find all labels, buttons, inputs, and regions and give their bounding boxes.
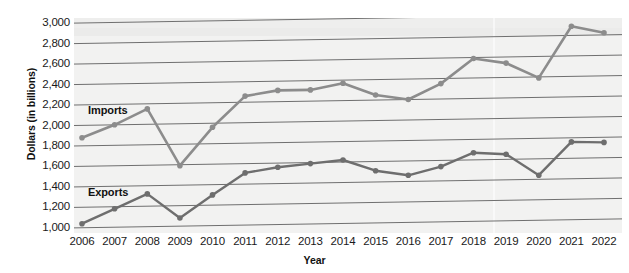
gridline bbox=[74, 18, 622, 23]
data-point[interactable] bbox=[242, 170, 248, 176]
data-point[interactable] bbox=[177, 163, 183, 169]
data-point[interactable] bbox=[406, 173, 412, 179]
x-tick-label: 2016 bbox=[396, 236, 421, 248]
data-point[interactable] bbox=[112, 206, 118, 212]
data-point[interactable] bbox=[275, 88, 281, 94]
data-point[interactable] bbox=[79, 135, 85, 141]
data-point[interactable] bbox=[308, 161, 314, 167]
x-tick-label: 2022 bbox=[592, 236, 617, 248]
y-tick-label: 2,200 bbox=[26, 99, 70, 111]
data-point[interactable] bbox=[177, 215, 183, 221]
y-tick-label: 2,400 bbox=[26, 79, 70, 91]
x-axis-tick-labels: 2006200720082009201020112012201320142015… bbox=[74, 236, 622, 254]
data-point[interactable] bbox=[536, 172, 542, 178]
x-tick-label: 2011 bbox=[233, 236, 257, 248]
data-point[interactable] bbox=[503, 151, 509, 157]
y-tick-label: 1,000 bbox=[26, 222, 70, 234]
line-chart: Dollars (in billions) 3,0002,8002,6002,4… bbox=[0, 0, 629, 273]
data-point[interactable] bbox=[438, 81, 444, 87]
gridline bbox=[74, 96, 622, 105]
data-point[interactable] bbox=[210, 125, 216, 131]
data-point[interactable] bbox=[438, 164, 444, 170]
data-point[interactable] bbox=[471, 56, 477, 62]
data-point[interactable] bbox=[503, 60, 509, 66]
plot-area: Imports Exports bbox=[74, 18, 622, 233]
series-label-imports: Imports bbox=[88, 104, 128, 116]
gridline bbox=[74, 35, 622, 44]
data-point[interactable] bbox=[210, 192, 216, 198]
y-tick-label: 1,200 bbox=[26, 202, 70, 214]
x-tick-label: 2019 bbox=[494, 236, 519, 248]
x-tick-label: 2010 bbox=[200, 236, 225, 248]
x-tick-label: 2020 bbox=[526, 236, 551, 248]
series-label-exports: Exports bbox=[88, 186, 128, 198]
data-point[interactable] bbox=[406, 97, 412, 103]
y-tick-label: 1,600 bbox=[26, 161, 70, 173]
data-point[interactable] bbox=[373, 92, 379, 98]
data-point[interactable] bbox=[340, 80, 346, 86]
data-point[interactable] bbox=[536, 75, 542, 81]
data-point[interactable] bbox=[308, 87, 314, 93]
y-tick-label: 2,000 bbox=[26, 120, 70, 132]
y-tick-label: 2,600 bbox=[26, 58, 70, 70]
plot-svg bbox=[74, 18, 622, 233]
x-tick-label: 2013 bbox=[298, 236, 323, 248]
data-point[interactable] bbox=[112, 122, 118, 128]
x-tick-label: 2006 bbox=[70, 236, 95, 248]
gridline bbox=[74, 219, 622, 228]
x-tick-label: 2015 bbox=[363, 236, 388, 248]
y-tick-label: 1,400 bbox=[26, 181, 70, 193]
data-point[interactable] bbox=[569, 139, 575, 145]
y-tick-label: 2,800 bbox=[26, 38, 70, 50]
data-point[interactable] bbox=[275, 164, 281, 170]
y-tick-label: 3,000 bbox=[26, 17, 70, 29]
data-point[interactable] bbox=[340, 157, 346, 163]
x-tick-label: 2018 bbox=[461, 236, 486, 248]
data-point[interactable] bbox=[145, 106, 151, 112]
data-point[interactable] bbox=[373, 168, 379, 174]
gridline bbox=[74, 55, 622, 64]
x-axis-title: Year bbox=[0, 254, 629, 266]
x-tick-label: 2009 bbox=[167, 236, 192, 248]
x-tick-label: 2008 bbox=[135, 236, 160, 248]
x-tick-label: 2021 bbox=[559, 236, 584, 248]
gridline bbox=[74, 137, 622, 146]
y-axis-tick-labels: 3,0002,8002,6002,4002,2002,0001,8001,600… bbox=[26, 0, 70, 273]
y-tick-label: 1,800 bbox=[26, 140, 70, 152]
data-point[interactable] bbox=[79, 221, 85, 227]
data-point[interactable] bbox=[242, 93, 248, 99]
data-point[interactable] bbox=[601, 30, 607, 36]
data-point[interactable] bbox=[471, 150, 477, 156]
x-tick-label: 2007 bbox=[102, 236, 127, 248]
data-point[interactable] bbox=[569, 23, 575, 29]
gridline bbox=[74, 178, 622, 187]
data-point[interactable] bbox=[601, 140, 607, 146]
x-tick-label: 2012 bbox=[265, 236, 290, 248]
x-tick-label: 2017 bbox=[428, 236, 453, 248]
x-tick-label: 2014 bbox=[331, 236, 356, 248]
data-point[interactable] bbox=[145, 191, 151, 197]
